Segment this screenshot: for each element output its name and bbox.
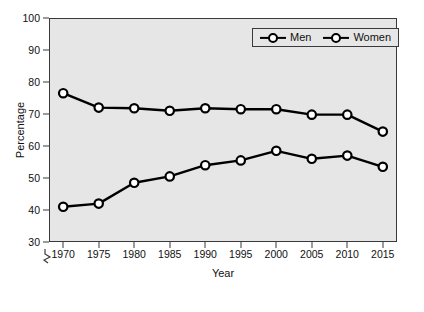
y-tick-label: 40: [6, 205, 40, 216]
data-point[interactable]: [166, 107, 174, 115]
x-tick-label: 1975: [79, 249, 119, 260]
data-point[interactable]: [343, 110, 351, 118]
data-point[interactable]: [130, 179, 138, 187]
data-point[interactable]: [130, 104, 138, 112]
x-tick-label: 2000: [256, 249, 296, 260]
data-point[interactable]: [201, 161, 209, 169]
axis-break-icon: [42, 248, 56, 264]
x-tick-label: 2015: [363, 249, 403, 260]
line-marker-icon: [323, 33, 349, 43]
series-layer: [49, 18, 397, 242]
x-axis-title: Year: [212, 267, 234, 279]
data-point[interactable]: [308, 110, 316, 118]
data-point[interactable]: [308, 155, 316, 163]
data-point[interactable]: [95, 103, 103, 111]
x-tick-mark: [382, 242, 383, 248]
y-tick-label: 50: [6, 173, 40, 184]
data-point[interactable]: [166, 172, 174, 180]
data-point[interactable]: [272, 147, 280, 155]
legend-label: Women: [353, 32, 391, 43]
legend-item-men[interactable]: Men: [260, 32, 311, 43]
data-point[interactable]: [272, 105, 280, 113]
data-point[interactable]: [379, 127, 387, 135]
line-marker-icon: [260, 33, 286, 43]
data-point[interactable]: [237, 156, 245, 164]
x-tick-label: 1995: [221, 249, 261, 260]
x-tick-label: 1985: [150, 249, 190, 260]
data-point[interactable]: [343, 151, 351, 159]
x-tick-mark: [347, 242, 348, 248]
series-line: [63, 93, 383, 131]
x-tick-label: 1990: [185, 249, 225, 260]
series-men: [59, 89, 387, 136]
x-tick-mark: [311, 242, 312, 248]
y-tick-label: 80: [6, 77, 40, 88]
y-tick-label: 60: [6, 141, 40, 152]
series-line: [63, 151, 383, 207]
y-tick-label: 30: [6, 237, 40, 248]
x-tick-mark: [276, 242, 277, 248]
data-point[interactable]: [59, 89, 67, 97]
legend: Men Women: [252, 28, 399, 47]
data-point[interactable]: [95, 199, 103, 207]
y-tick-label: 100: [6, 13, 40, 24]
x-tick-mark: [98, 242, 99, 248]
series-women: [59, 147, 387, 211]
legend-item-women[interactable]: Women: [323, 32, 391, 43]
x-tick-mark: [134, 242, 135, 248]
y-tick-label: 90: [6, 45, 40, 56]
data-point[interactable]: [201, 104, 209, 112]
x-tick-label: 2010: [327, 249, 367, 260]
x-tick-mark: [63, 242, 64, 248]
legend-label: Men: [290, 32, 311, 43]
y-tick-label: 70: [6, 109, 40, 120]
data-point[interactable]: [379, 163, 387, 171]
x-tick-mark: [240, 242, 241, 248]
x-tick-label: 2005: [292, 249, 332, 260]
x-tick-mark: [205, 242, 206, 248]
x-tick-mark: [169, 242, 170, 248]
data-point[interactable]: [237, 105, 245, 113]
line-chart: Percentage Year 30405060708090100 197019…: [0, 0, 424, 312]
x-tick-label: 1980: [114, 249, 154, 260]
data-point[interactable]: [59, 203, 67, 211]
